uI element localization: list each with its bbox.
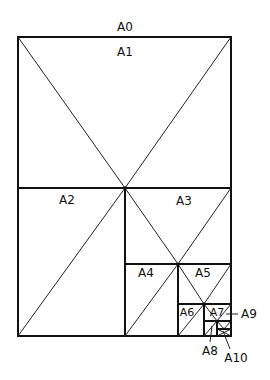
- intersection-dot: [223, 328, 225, 330]
- intersection-dot: [176, 262, 179, 265]
- a1-diagonal-right: [125, 37, 231, 188]
- a9-diagonal-right: [224, 321, 231, 329]
- intersection-dot: [216, 320, 219, 323]
- label-a10: A10: [224, 351, 247, 365]
- a9-diagonal-left: [217, 321, 224, 329]
- label-a2: A2: [59, 193, 75, 207]
- label-a0: A0: [117, 20, 133, 34]
- a2-diagonal: [18, 188, 125, 336]
- intersection-dot: [203, 303, 206, 306]
- label-a5: A5: [195, 266, 211, 280]
- a8-diagonal: [204, 321, 217, 336]
- label-a6: A6: [180, 306, 195, 319]
- label-a4: A4: [138, 266, 154, 280]
- label-a3: A3: [176, 194, 192, 208]
- a1-diagonal-left: [18, 37, 125, 188]
- a3-diagonal-left: [125, 188, 178, 264]
- intersection-dot: [123, 186, 127, 190]
- label-a7: A7: [210, 306, 225, 319]
- label-a1: A1: [117, 45, 133, 59]
- label-a9: A9: [241, 307, 257, 321]
- paper-sizes-diagram: A0 A1 A2 A3 A4 A5 A6 A7 A9 A8 A10: [0, 0, 270, 380]
- label-a8: A8: [202, 344, 218, 358]
